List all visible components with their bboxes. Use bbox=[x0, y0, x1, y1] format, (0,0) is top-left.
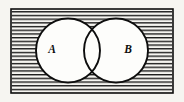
set-label-a: A bbox=[47, 43, 56, 55]
set-label-b: B bbox=[123, 43, 132, 55]
venn-diagram-figure: A B bbox=[0, 0, 184, 102]
venn-diagram-canvas: A B bbox=[0, 0, 184, 102]
